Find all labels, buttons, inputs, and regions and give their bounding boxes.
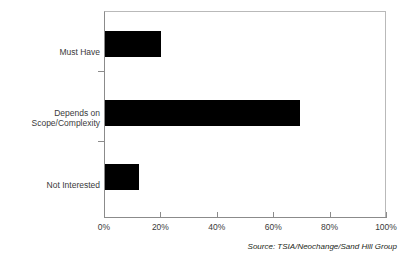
x-axis-tick-label: 0% bbox=[84, 222, 124, 232]
bar-not-interested bbox=[105, 164, 139, 190]
bar-chart-figure: Must Have Depends on Scope/Complexity No… bbox=[0, 0, 405, 259]
x-axis-tick-label: 60% bbox=[253, 222, 293, 232]
x-axis-tick bbox=[160, 212, 161, 218]
source-attribution: Source: TSIA/Neochange/Sand Hill Group bbox=[248, 242, 397, 251]
x-axis-tick bbox=[217, 212, 218, 218]
x-axis-tick bbox=[330, 212, 331, 218]
bar-must-have bbox=[105, 31, 161, 57]
category-label-depends-on-scope-complexity: Depends on Scope/Complexity bbox=[31, 97, 100, 139]
x-axis-tick bbox=[104, 212, 105, 218]
x-axis-tick-label: 80% bbox=[310, 222, 350, 232]
category-label-must-have: Must Have bbox=[59, 36, 100, 68]
bar-depends-on-scope-complexity bbox=[105, 100, 300, 126]
x-axis-tick-label: 20% bbox=[140, 222, 180, 232]
x-axis-tick bbox=[273, 212, 274, 218]
category-label-not-interested: Not Interested bbox=[47, 169, 100, 201]
x-axis-tick-label: 40% bbox=[197, 222, 237, 232]
x-axis-line bbox=[104, 217, 387, 218]
category-separator-tick bbox=[98, 141, 105, 142]
category-separator-tick bbox=[98, 71, 105, 72]
x-axis-tick-label: 100% bbox=[366, 222, 405, 232]
x-axis-tick bbox=[386, 212, 387, 218]
